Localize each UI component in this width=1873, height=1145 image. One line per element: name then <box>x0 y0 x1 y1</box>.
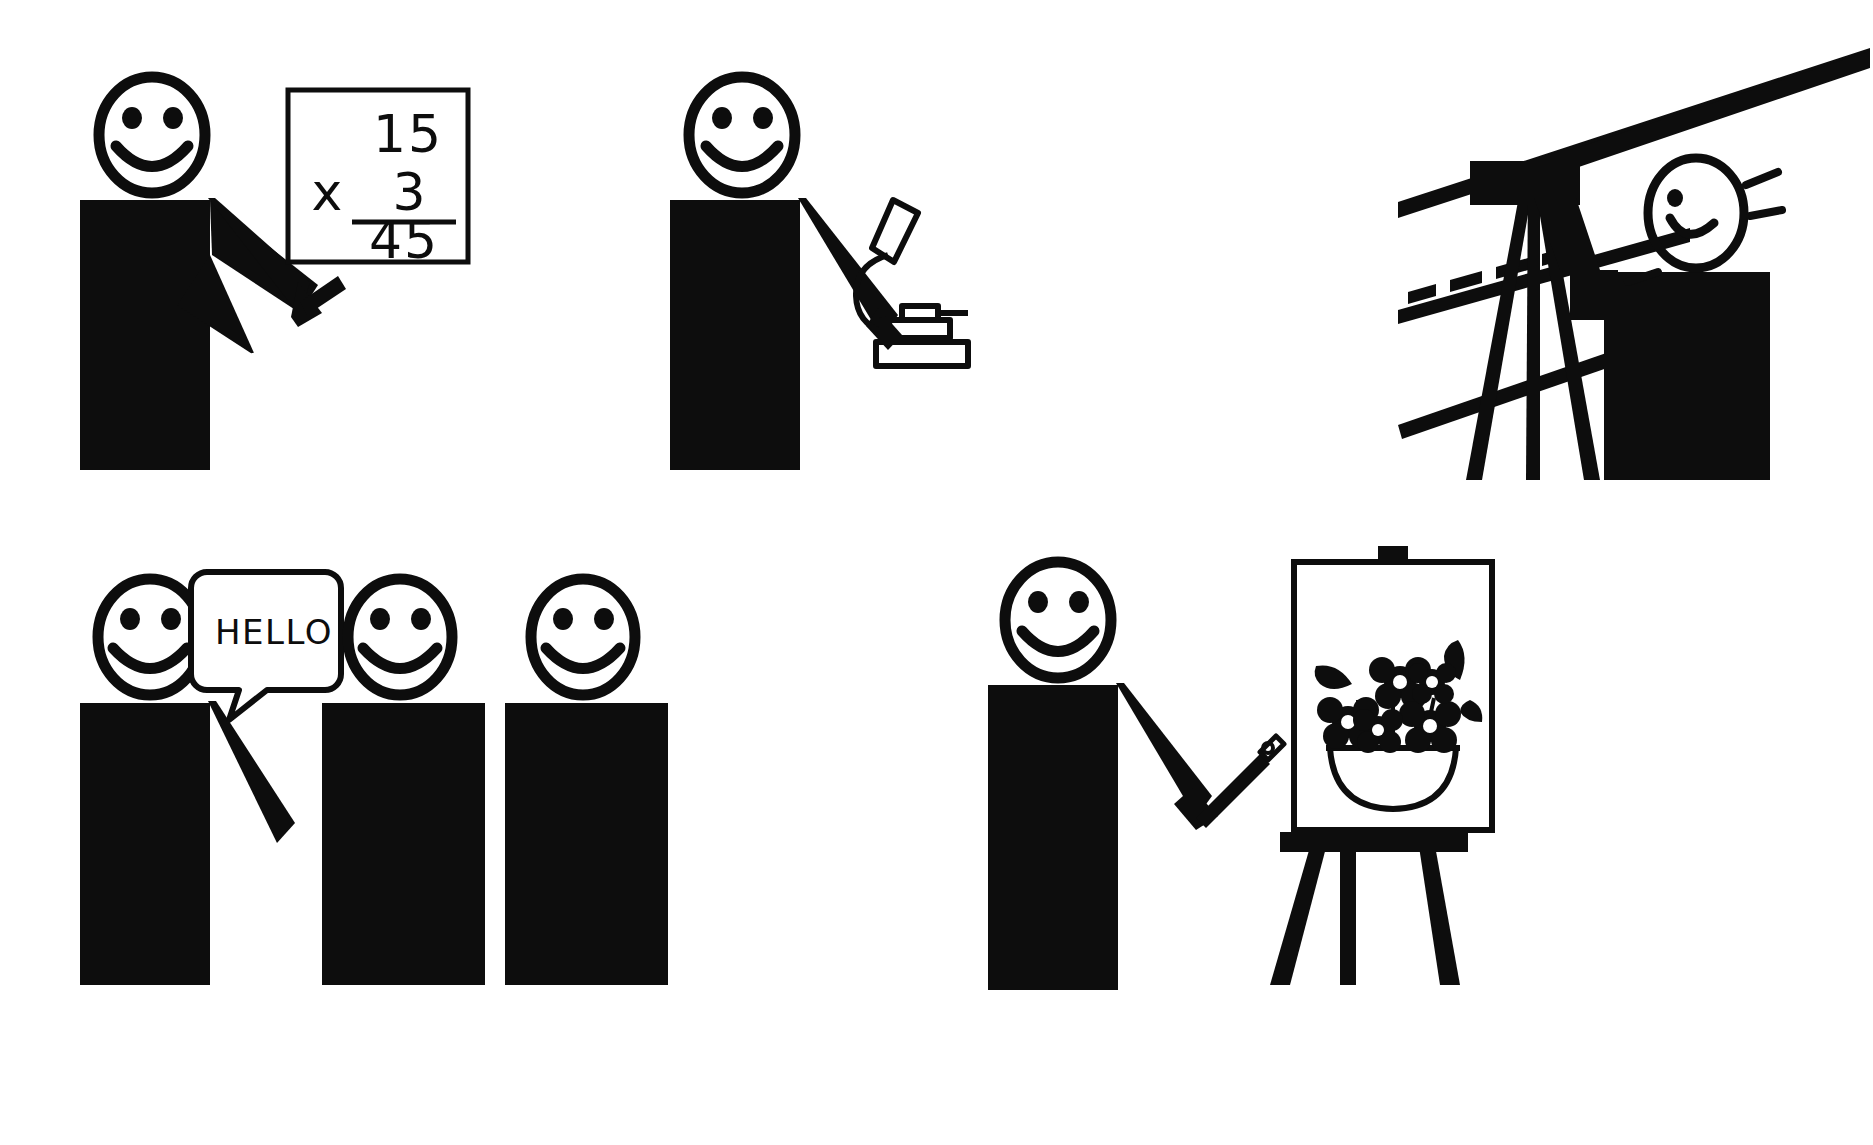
clipart-sheet: 15 x 3 45 <box>0 0 1873 1145</box>
smiley-head-microscope <box>689 77 795 193</box>
scene-painter-student <box>960 540 1520 990</box>
math-product: 45 <box>369 210 439 270</box>
paintbrush-icon <box>1196 736 1284 828</box>
speech-bubble-text: HELLO <box>215 612 333 652</box>
smiley-head-greeting-1 <box>98 579 202 695</box>
smiley-head-math <box>99 77 205 193</box>
scene-microscope-student <box>650 70 1010 490</box>
figure-greeting-3 <box>505 579 668 985</box>
figure-body-microscope <box>670 198 898 470</box>
smiley-head-telescope-profile <box>1628 158 1782 282</box>
smiley-head-painter <box>1005 562 1111 678</box>
math-operator: x <box>312 162 345 222</box>
figure-greeting-2 <box>322 579 485 985</box>
easel-icon <box>1270 546 1492 985</box>
figure-body-painter <box>988 683 1212 990</box>
hand-pointer-icon <box>291 276 346 327</box>
scene-greeting-students: HELLO <box>55 555 715 985</box>
math-multiplicand: 15 <box>373 104 443 164</box>
speech-bubble-hello: HELLO <box>191 572 341 720</box>
scene-math-student: 15 x 3 45 <box>60 70 500 490</box>
smiley-head-greeting-3 <box>531 579 635 695</box>
smiley-head-greeting-2 <box>348 579 452 695</box>
figure-body-math <box>80 198 318 470</box>
scene-telescope-student <box>1130 20 1870 480</box>
figure-body-telescope <box>1570 270 1770 480</box>
math-problem-board: 15 x 3 45 <box>288 90 468 270</box>
